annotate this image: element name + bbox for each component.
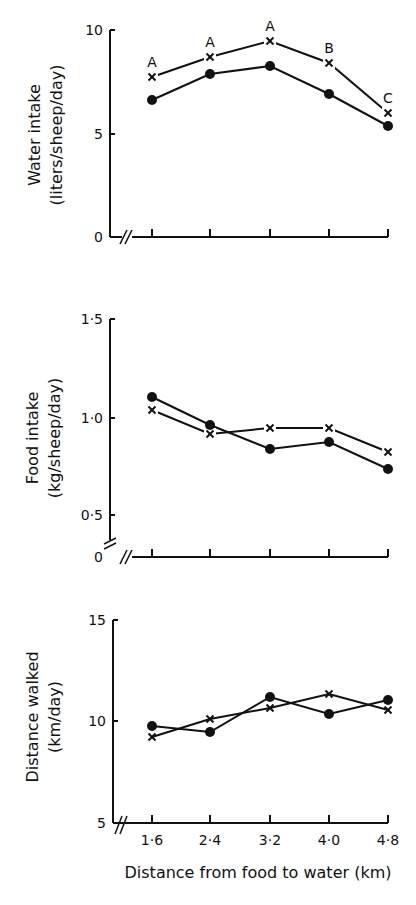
p1-letter-1: A bbox=[147, 54, 157, 70]
p2-ytick-1.0: 1·0 bbox=[81, 410, 103, 426]
p2-ytick-0: 0 bbox=[94, 549, 103, 565]
food-intake-panel: Food intake (kg/sheep/day) 1·5 1·0 0·5 0 bbox=[23, 311, 394, 565]
distance-walked-panel: Distance walked (km/day) 15 10 5 1·6 2·4… bbox=[23, 612, 399, 882]
p1-ytick-10: 10 bbox=[85, 22, 103, 38]
p1-dot-series bbox=[152, 66, 388, 126]
p2-yunits: (kg/sheep/day) bbox=[45, 378, 64, 498]
p3-ylabel: Distance walked bbox=[23, 651, 42, 782]
xtick-2.4: 2·4 bbox=[199, 832, 221, 848]
figure: Water intake (liters/sheep/day) 10 5 0 A… bbox=[0, 0, 416, 905]
xtick-4.0: 4·0 bbox=[318, 832, 340, 848]
p3-ytick-15: 15 bbox=[88, 612, 106, 628]
xtick-4.8: 4·8 bbox=[377, 832, 399, 848]
p3-yunits: (km/day) bbox=[45, 681, 64, 753]
p1-ytick-5: 5 bbox=[94, 126, 103, 142]
p2-ytick-0.5: 0·5 bbox=[81, 507, 103, 523]
p1-letter-5: C bbox=[383, 90, 393, 106]
p1-ylabel: Water intake bbox=[25, 84, 44, 186]
xtick-3.2: 3·2 bbox=[259, 832, 281, 848]
p1-x-series bbox=[152, 41, 388, 113]
p1-letter-3: A bbox=[265, 18, 275, 34]
xtick-1.6: 1·6 bbox=[141, 832, 163, 848]
p1-letter-4: B bbox=[324, 40, 334, 56]
p1-letter-2: A bbox=[205, 34, 215, 50]
p3-ytick-10: 10 bbox=[88, 713, 106, 729]
p2-ylabel: Food intake bbox=[23, 392, 42, 485]
p2-ytick-1.5: 1·5 bbox=[81, 311, 103, 327]
water-intake-panel: Water intake (liters/sheep/day) 10 5 0 A… bbox=[25, 18, 394, 245]
x-axis-label: Distance from food to water (km) bbox=[125, 863, 392, 882]
p3-ytick-5: 5 bbox=[97, 815, 106, 831]
p1-yunits: (liters/sheep/day) bbox=[47, 65, 66, 206]
p1-ytick-0: 0 bbox=[94, 229, 103, 245]
